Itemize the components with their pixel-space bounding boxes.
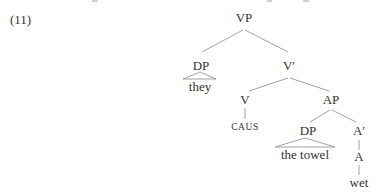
triangle-dp-the-towel: [275, 138, 335, 147]
node-a: A: [354, 149, 364, 164]
example-number: (11): [10, 12, 31, 27]
node-vp: VP: [236, 10, 253, 25]
edge-vbar-ap: [290, 78, 329, 91]
edge-ap-abar: [332, 110, 356, 122]
leaf-caus: CAUS: [231, 122, 259, 132]
triangle-dp-they: [183, 72, 216, 79]
node-a-bar: A′: [353, 123, 365, 138]
node-dp-object: DP: [300, 123, 317, 138]
cut-off-text-fragments: [92, 0, 309, 2]
edge-vp-vbar: [245, 30, 288, 52]
leaf-they: they: [189, 79, 212, 94]
leaf-wet: wet: [350, 175, 369, 190]
syntax-tree: (11) VP DP they V′ V CAUS AP DP the towe…: [0, 0, 381, 195]
edge-vbar-v: [249, 78, 288, 91]
node-dp-subject: DP: [193, 58, 210, 73]
node-ap: AP: [323, 92, 340, 107]
node-v-bar: V′: [283, 58, 295, 73]
edge-ap-dp: [310, 110, 330, 122]
leaf-the-towel: the towel: [281, 147, 329, 162]
node-v: V: [240, 92, 250, 107]
edge-vp-dp: [202, 30, 243, 52]
